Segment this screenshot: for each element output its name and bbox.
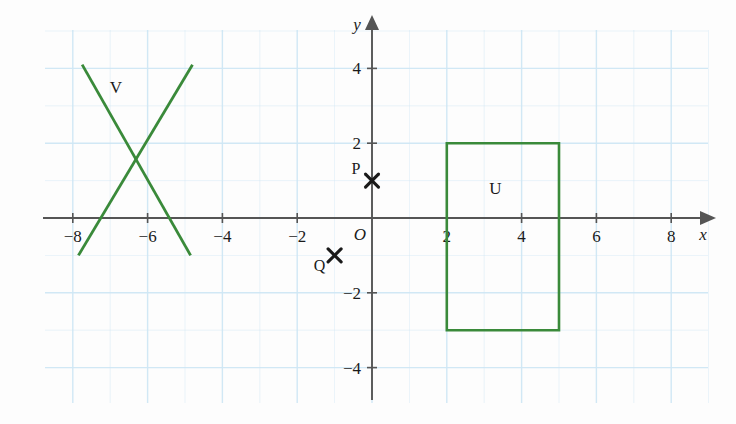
labels-layer: xyOUVPQ [110, 15, 708, 274]
shapes-layer [78, 65, 559, 331]
shape-label-u: U [489, 179, 501, 198]
y-axis-tick-label: 2 [353, 134, 362, 153]
x-axis-tick-label: 6 [592, 227, 601, 246]
shape-u [447, 143, 559, 330]
point-label-p: P [352, 160, 361, 177]
y-axis-tick-label: −2 [343, 284, 361, 303]
x-axis-tick-label: −8 [64, 227, 82, 246]
x-axis-tick-label: −6 [139, 227, 157, 246]
grid-layer [45, 30, 709, 403]
x-axis-tick-label: 8 [667, 227, 676, 246]
y-axis-arrowhead [365, 15, 379, 30]
x-axis-arrowhead [700, 211, 716, 225]
y-axis-tick-label: −4 [343, 359, 362, 378]
x-axis-tick-label: −4 [213, 227, 232, 246]
x-axis-tick-label: 4 [517, 227, 526, 246]
x-axis-tick-label: −2 [288, 227, 306, 246]
origin-label: O [354, 225, 366, 244]
y-axis-label: y [351, 15, 361, 34]
shape-label-v: V [110, 78, 123, 97]
coordinate-graph: −8−6−4−2246842−2−4 xyOUVPQ [0, 0, 736, 424]
axes-layer: −8−6−4−2246842−2−4 [43, 15, 716, 400]
x-axis-label: x [698, 225, 707, 244]
y-axis-tick-label: 4 [353, 59, 362, 78]
point-label-q: Q [314, 257, 326, 274]
figure-canvas: −8−6−4−2246842−2−4 xyOUVPQ [0, 0, 736, 424]
